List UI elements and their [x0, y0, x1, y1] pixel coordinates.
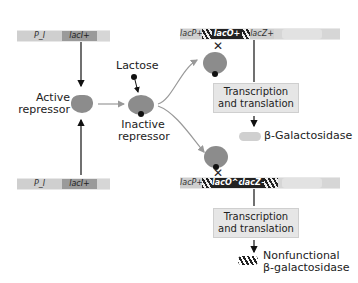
beta-galactosidase-label: β-Galactosidase [264, 130, 352, 142]
transcription-translation-box-top: Transcription and translation [213, 83, 299, 113]
active-repressor-icon [71, 95, 93, 113]
nonfunctional-beta-galactosidase-label: Nonfunctional β-galactosidase [263, 250, 353, 274]
promoter-PI-bottom: P_I [17, 179, 62, 189]
inactive-repressor-label: Inactive repressor [118, 119, 168, 143]
lacP-segment-bottom: lacP+ [180, 178, 202, 188]
lacI-segment-bottom: lacI+ [62, 179, 97, 189]
promoter-PI-top: P_I [17, 31, 62, 41]
beta-galactosidase-icon [239, 132, 261, 141]
lacI-gene-top: P_I lacI+ [17, 30, 110, 42]
active-repressor-label: Active repressor [14, 92, 70, 116]
lacI-gene-bottom: P_I lacI+ [17, 178, 110, 190]
nonfunctional-protein-icon [238, 256, 258, 265]
hatch-segment-top-2 [242, 29, 250, 39]
lactose-label: Lactose [116, 60, 158, 72]
lacOc-segment-bottom: lacO^c [212, 178, 242, 188]
lacZ-segment-bottom: lacZ− [242, 178, 264, 188]
bound-lactose-top-icon [212, 71, 218, 77]
hatch-segment-top [202, 29, 212, 39]
hatch-segment-bottom [202, 178, 212, 188]
downstream-segment-top [282, 29, 322, 39]
bound-lactose-icon [138, 111, 144, 117]
lacO-segment-top: lacO+ [212, 29, 242, 39]
lacI-segment-top: lacI+ [62, 31, 97, 41]
blocked-x-icon-top: ✕ [213, 40, 223, 52]
hatch-segment-bottom-2 [264, 178, 278, 188]
lactose-molecule-icon [131, 74, 137, 80]
lac-operon-bottom: lacP+ lacO^c lacZ− [180, 177, 340, 189]
lacP-segment-top: lacP+ [180, 29, 202, 39]
downstream-segment-bottom [282, 178, 322, 188]
lacZ-segment-top: lacZ+ [250, 29, 274, 39]
lac-operon-top: lacP+ lacO+ lacZ+ [180, 28, 340, 40]
transcription-translation-box-bottom: Transcription and translation [213, 208, 299, 238]
